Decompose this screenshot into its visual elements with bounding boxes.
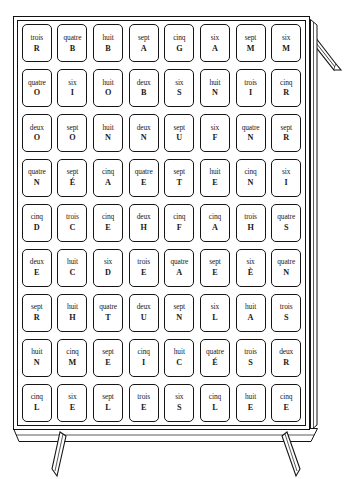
card[interactable]: septT xyxy=(164,159,194,197)
card[interactable]: cinqL xyxy=(200,384,230,422)
card-word: trois xyxy=(244,213,257,221)
card[interactable]: huitE xyxy=(200,159,230,197)
card-letter: C xyxy=(176,359,182,368)
card[interactable]: cinqG xyxy=(164,24,194,62)
card[interactable]: septN xyxy=(164,294,194,332)
card-letter: A xyxy=(141,45,147,54)
card[interactable]: deuxO xyxy=(22,114,52,152)
grid-cell: septM xyxy=(233,21,269,66)
card[interactable]: septA xyxy=(129,24,159,62)
card-word: cinq xyxy=(173,34,185,42)
card[interactable]: troisS xyxy=(271,294,301,332)
card[interactable]: deuxH xyxy=(129,204,159,242)
card[interactable]: quatreT xyxy=(93,294,123,332)
card-word: cinq xyxy=(209,393,221,401)
card[interactable]: troisH xyxy=(236,204,266,242)
card[interactable]: septU xyxy=(164,114,194,152)
card[interactable]: cinqR xyxy=(271,69,301,107)
card[interactable]: deuxN xyxy=(129,114,159,152)
card[interactable]: sixI xyxy=(57,69,87,107)
card-word: deux xyxy=(137,124,151,132)
card[interactable]: cinqI xyxy=(129,339,159,377)
card-word: quatre xyxy=(99,303,117,311)
grid-cell: deuxU xyxy=(126,290,162,335)
card[interactable]: troisC xyxy=(57,204,87,242)
card[interactable]: sixS xyxy=(164,384,194,422)
card-letter: E xyxy=(141,179,146,188)
card[interactable]: cinqE xyxy=(93,204,123,242)
card-letter: L xyxy=(34,404,39,413)
card[interactable]: sixL xyxy=(200,294,230,332)
card[interactable]: sixD xyxy=(93,249,123,287)
card[interactable]: cinqA xyxy=(200,204,230,242)
card[interactable]: cinqM xyxy=(57,339,87,377)
card[interactable]: huitC xyxy=(57,249,87,287)
card-word: trois xyxy=(30,34,43,42)
card[interactable]: deuxB xyxy=(129,69,159,107)
card[interactable]: troisS xyxy=(236,339,266,377)
card[interactable]: septE xyxy=(93,339,123,377)
card-letter: L xyxy=(212,404,217,413)
grid-cell: quatreT xyxy=(90,290,126,335)
card[interactable]: cinqL xyxy=(22,384,52,422)
card[interactable]: quatreB xyxy=(57,24,87,62)
card[interactable]: sixI xyxy=(271,159,301,197)
grid-cell: sixA xyxy=(197,21,233,66)
card[interactable]: huitE xyxy=(236,384,266,422)
card[interactable]: sixÈ xyxy=(236,249,266,287)
card-letter: N xyxy=(212,89,218,98)
card[interactable]: huitN xyxy=(93,114,123,152)
grid-cell: huitC xyxy=(162,335,198,380)
card[interactable]: cinqA xyxy=(93,159,123,197)
card[interactable]: quatreA xyxy=(164,249,194,287)
grid-cell: quatreE xyxy=(126,156,162,201)
card[interactable]: quatreN xyxy=(22,159,52,197)
grid-cell: quatreÉ xyxy=(197,335,233,380)
card[interactable]: huitN xyxy=(200,69,230,107)
card-letter: H xyxy=(69,314,75,323)
card[interactable]: troisE xyxy=(129,249,159,287)
card[interactable]: septE xyxy=(200,249,230,287)
card[interactable]: deuxE xyxy=(22,249,52,287)
card[interactable]: quatreO xyxy=(22,69,52,107)
card[interactable]: septR xyxy=(22,294,52,332)
card[interactable]: troisR xyxy=(22,24,52,62)
card[interactable]: huitN xyxy=(22,339,52,377)
card[interactable]: cinqN xyxy=(236,159,266,197)
card[interactable]: quatreN xyxy=(236,114,266,152)
card[interactable]: septR xyxy=(271,114,301,152)
card[interactable]: sixA xyxy=(200,24,230,62)
card-letter: G xyxy=(176,45,182,54)
card[interactable]: septL xyxy=(93,384,123,422)
card[interactable]: quatreS xyxy=(271,204,301,242)
card[interactable]: cinqE xyxy=(271,384,301,422)
card[interactable]: huitC xyxy=(164,339,194,377)
card[interactable]: septM xyxy=(236,24,266,62)
card[interactable]: huitA xyxy=(236,294,266,332)
card-word: huit xyxy=(174,348,185,356)
card[interactable]: quatreÉ xyxy=(200,339,230,377)
card-word: quatre xyxy=(242,124,260,132)
card[interactable]: huitO xyxy=(93,69,123,107)
card[interactable]: quatreE xyxy=(129,159,159,197)
card[interactable]: quatreN xyxy=(271,249,301,287)
card[interactable]: deuxR xyxy=(271,339,301,377)
card[interactable]: deuxU xyxy=(129,294,159,332)
card-letter: F xyxy=(177,224,182,233)
card[interactable]: septÉ xyxy=(57,159,87,197)
card[interactable]: septO xyxy=(57,114,87,152)
card[interactable]: huitH xyxy=(57,294,87,332)
card[interactable]: troisE xyxy=(129,384,159,422)
card[interactable]: troisI xyxy=(236,69,266,107)
card-letter: U xyxy=(176,134,182,143)
card[interactable]: sixF xyxy=(200,114,230,152)
card-letter: I xyxy=(71,89,74,98)
card[interactable]: sixM xyxy=(271,24,301,62)
card-word: huit xyxy=(209,79,220,87)
card[interactable]: huitB xyxy=(93,24,123,62)
grid-cell: cinqI xyxy=(126,335,162,380)
card[interactable]: sixE xyxy=(57,384,87,422)
card[interactable]: cinqF xyxy=(164,204,194,242)
card[interactable]: sixS xyxy=(164,69,194,107)
card[interactable]: cinqD xyxy=(22,204,52,242)
